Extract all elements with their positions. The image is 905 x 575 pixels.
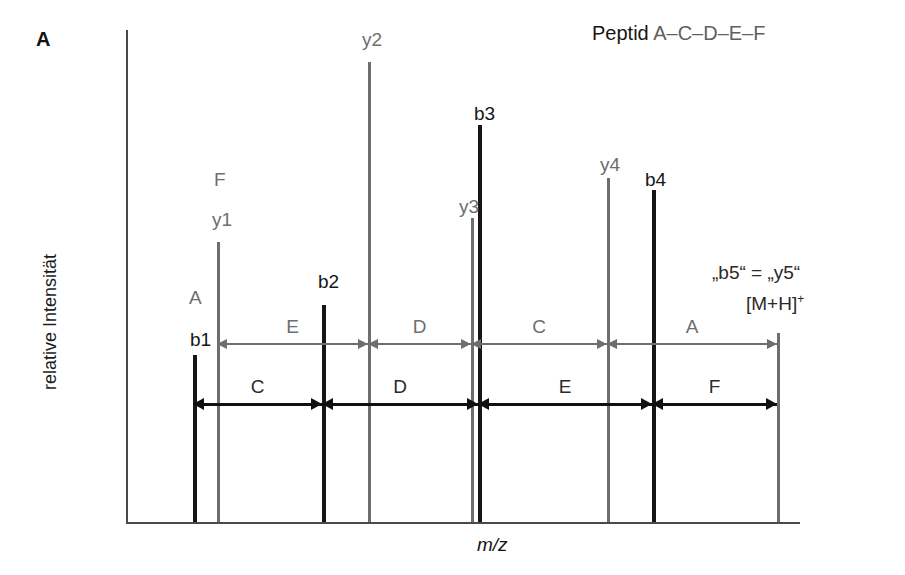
peak-label-b1: b1 — [190, 330, 211, 349]
title-prefix: Peptid — [592, 22, 649, 44]
peak-mh — [777, 333, 780, 522]
residue-span-y-series-D — [368, 343, 471, 345]
residue-span-b-series-D — [322, 403, 478, 406]
arrowhead-left-icon — [607, 339, 617, 349]
arrowhead-left-icon — [478, 398, 489, 410]
peak-label-y4: y4 — [600, 155, 620, 174]
peak-label-y3: y3 — [459, 197, 479, 216]
arrowhead-left-icon — [322, 398, 333, 410]
y-axis-line — [126, 30, 128, 524]
residue-label-y-series-A: A — [686, 316, 699, 338]
peak-y3 — [471, 218, 474, 522]
residue-span-b-series-E — [478, 403, 652, 406]
panel-label: A — [36, 28, 50, 51]
arrowhead-left-icon — [193, 398, 204, 410]
arrowhead-left-icon — [652, 398, 663, 410]
arrowhead-right-icon — [467, 398, 478, 410]
arrowhead-right-icon — [766, 398, 777, 410]
peak-label-b3: b3 — [474, 104, 495, 123]
residue-span-b-series-C — [193, 403, 322, 406]
x-axis-line — [126, 522, 800, 524]
residue-label-b-series-D: D — [393, 376, 407, 398]
peak-label-a: A — [189, 288, 202, 307]
residue-label-b-series-F: F — [709, 376, 721, 398]
peak-label-y2: y2 — [362, 30, 382, 49]
residue-span-b-series-F — [652, 403, 777, 406]
residue-label-y-series-C: C — [532, 316, 546, 338]
peak-label-b2: b2 — [318, 272, 339, 291]
annotation-b5-equals-y5: „b5“ = „y5“ — [712, 262, 800, 284]
arrowhead-right-icon — [461, 339, 471, 349]
arrowhead-right-icon — [597, 339, 607, 349]
peak-b1 — [193, 355, 197, 522]
peak-label-b4: b4 — [645, 170, 666, 189]
x-axis-label: m/z — [477, 534, 508, 556]
arrowhead-left-icon — [368, 339, 378, 349]
figure-panel-a: A Peptid A–C–D–E–F relative Intensität m… — [0, 0, 905, 575]
arrowhead-right-icon — [641, 398, 652, 410]
charge-superscript: + — [797, 292, 804, 306]
peak-y2 — [368, 62, 371, 522]
arrowhead-right-icon — [358, 339, 368, 349]
residue-span-y-series-C — [471, 343, 607, 345]
figure-title: Peptid A–C–D–E–F — [592, 22, 765, 45]
arrowhead-right-icon — [767, 339, 777, 349]
arrowhead-left-icon — [217, 339, 227, 349]
arrowhead-right-icon — [311, 398, 322, 410]
peptide-sequence: A–C–D–E–F — [653, 22, 765, 44]
residue-label-y-series-D: D — [413, 316, 427, 338]
peak-y1 — [217, 242, 220, 522]
y-axis-label: relative Intensität — [40, 254, 61, 390]
residue-span-y-series-A — [607, 343, 777, 345]
residue-label-b-series-E: E — [559, 376, 572, 398]
arrowhead-left-icon — [471, 339, 481, 349]
residue-span-y-series-E — [217, 343, 368, 345]
annotation-molecular-ion: [M+H]+ — [746, 292, 804, 315]
residue-label-y-series-E: E — [286, 316, 299, 338]
peak-b4 — [652, 190, 656, 522]
peak-y4 — [607, 178, 610, 522]
peak-b3 — [478, 125, 482, 522]
residue-label-b-series-C: C — [251, 376, 265, 398]
peak-label-y1: y1 — [212, 210, 232, 229]
peak-b2 — [322, 305, 326, 522]
peak-label-f: F — [214, 170, 226, 189]
